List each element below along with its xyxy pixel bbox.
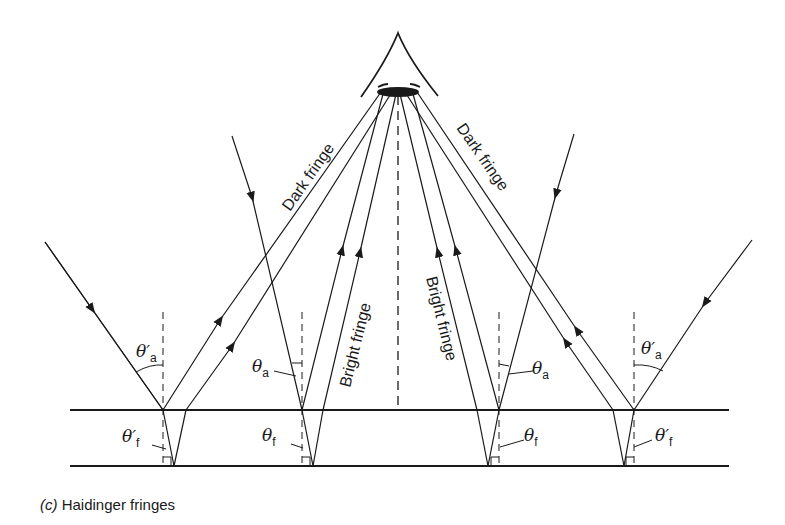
haidinger-fringes-diagram: Dark fringe Dark fringe Bright fringe Br… (0, 0, 785, 525)
theta-f-right: θf (524, 425, 538, 449)
theta-f-left: θf (262, 425, 276, 449)
caption-text: Haidinger fringes (62, 496, 175, 513)
dark-fringe-right-label: Dark fringe (454, 120, 513, 194)
diagram-canvas: Dark fringe Dark fringe Bright fringe Br… (0, 0, 785, 525)
caption-part: (c) (40, 496, 58, 513)
theta-a-left: θa (252, 356, 269, 380)
theta-a-prime-right: θ′a (641, 338, 662, 362)
dark-fringe-left-label: Dark fringe (279, 140, 338, 214)
figure-caption: (c) Haidinger fringes (40, 496, 175, 513)
theta-a-prime-left: θ′a (136, 341, 157, 365)
bright-fringe-left-label: Bright fringe (336, 301, 373, 389)
theta-f-prime-right: θ′f (655, 425, 673, 449)
theta-f-prime-left: θ′f (122, 426, 140, 450)
theta-a-right: θa (532, 358, 549, 382)
eye-icon (361, 33, 438, 97)
angle-markers (136, 363, 663, 466)
